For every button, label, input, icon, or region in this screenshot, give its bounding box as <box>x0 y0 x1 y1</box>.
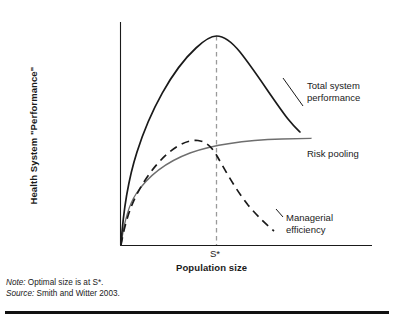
figure-source-key: Source: <box>6 289 34 298</box>
leader-line-managerial <box>276 209 283 217</box>
figure-note: Note: Optimal size is at S*. <box>6 277 120 288</box>
series-label-managerial-efficiency-line2: efficiency <box>286 224 333 236</box>
figure-panel: Health System "Performance" Population s… <box>0 0 394 330</box>
figure-source-text: Smith and Witter 2003. <box>34 289 120 298</box>
series-label-total-system-performance: Total system performance <box>307 80 360 103</box>
series-managerial-efficiency <box>121 140 274 245</box>
figure-footnotes: Note: Optimal size is at S*. Source: Smi… <box>6 277 120 299</box>
figure-source: Source: Smith and Witter 2003. <box>6 288 120 299</box>
series-label-managerial-efficiency-line1: Managerial <box>286 212 333 224</box>
figure-note-key: Note: <box>6 278 26 287</box>
x-axis-title: Population size <box>176 262 247 273</box>
y-axis-title: Health System "Performance" <box>28 41 39 231</box>
series-label-total-system-performance-line1: Total system <box>307 80 360 92</box>
leader-line-total-system <box>283 78 303 106</box>
series-label-managerial-efficiency: Managerial efficiency <box>286 212 333 235</box>
series-total-system-performance <box>121 36 300 245</box>
figure-note-text: Optimal size is at S*. <box>26 278 104 287</box>
series-label-total-system-performance-line2: performance <box>307 92 360 104</box>
series-label-risk-pooling: Risk pooling <box>307 148 359 160</box>
bottom-divider-rule <box>5 311 389 314</box>
x-axis-tick-label-s-star: S* <box>210 248 220 259</box>
